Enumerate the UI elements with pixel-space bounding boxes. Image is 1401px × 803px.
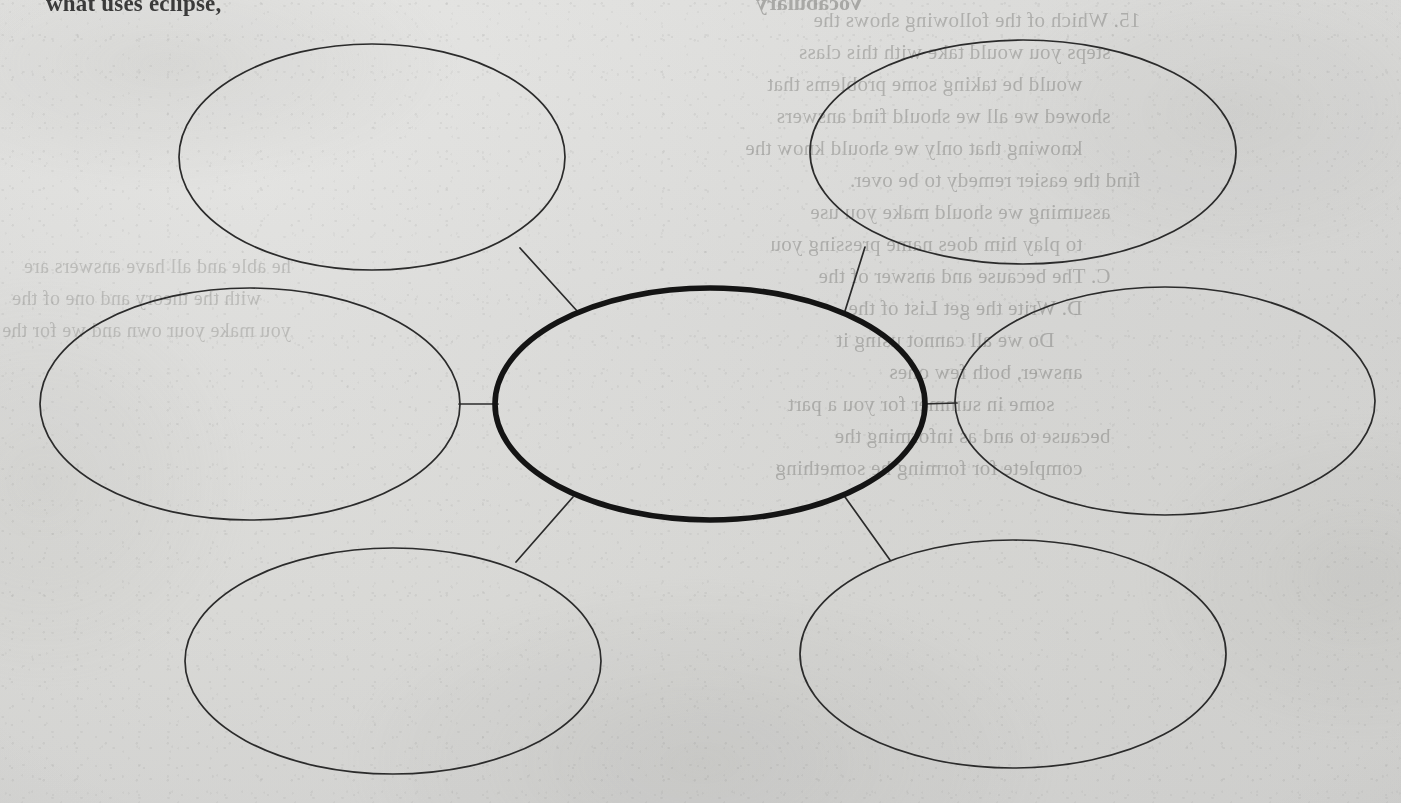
connector-bottom-right-to-center — [845, 497, 890, 560]
bubble-map-diagram — [0, 0, 1401, 803]
bubble-bottom-right[interactable] — [800, 540, 1226, 768]
connector-top-left-to-center — [520, 248, 578, 312]
connector-bottom-left-to-center — [516, 497, 573, 562]
bubble-top-left[interactable] — [179, 44, 565, 270]
bubble-middle-right[interactable] — [955, 287, 1375, 515]
bubble-top-right[interactable] — [810, 40, 1236, 264]
connector-middle-right-to-center — [923, 403, 957, 404]
connector-top-right-to-center — [845, 247, 865, 311]
outer-node-group — [40, 40, 1375, 774]
bubble-bottom-left[interactable] — [185, 548, 601, 774]
bubble-middle-left[interactable] — [40, 288, 460, 520]
scanned-worksheet-page: 15. Which of the following shows the ste… — [0, 0, 1401, 803]
connector-group — [459, 247, 957, 562]
bubble-center[interactable] — [495, 288, 925, 520]
